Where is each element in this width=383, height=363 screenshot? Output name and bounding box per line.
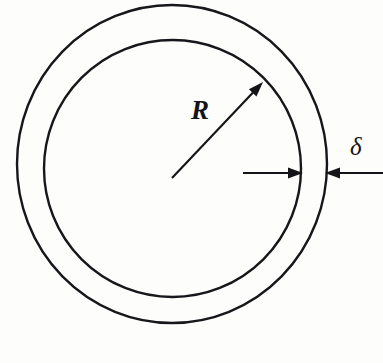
thickness-arrow-inner — [243, 168, 303, 179]
radius-label: R — [191, 97, 209, 124]
inner-circle — [44, 40, 301, 297]
radius-leader-line — [172, 92, 254, 178]
outer-circle — [17, 5, 327, 323]
annulus-diagram-figure: R δ — [0, 0, 383, 363]
thickness-label: δ — [350, 134, 362, 159]
thickness-arrow-outer — [325, 168, 383, 179]
radius-arrow — [172, 82, 263, 178]
annulus-diagram-canvas — [0, 0, 383, 363]
